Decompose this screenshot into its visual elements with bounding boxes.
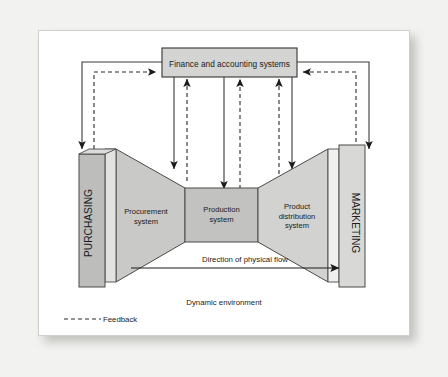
legend-feedback-label: Feedback xyxy=(103,315,137,324)
figure-card: Finance and accounting systems Procureme… xyxy=(38,30,410,336)
dynamic-environment-label: Dynamic environment xyxy=(186,298,262,307)
purchasing-label: PURCHASING xyxy=(83,189,94,257)
purchasing-side-face xyxy=(105,149,116,282)
marketing-label: MARKETING xyxy=(350,193,361,254)
system-flow-diagram: Finance and accounting systems Procureme… xyxy=(39,31,409,335)
marketing-side-face xyxy=(328,149,339,282)
feedback-line-purchasing xyxy=(94,72,156,149)
legend: Feedback xyxy=(64,315,137,324)
purchasing-block[interactable]: PURCHASING xyxy=(79,149,116,287)
finance-box[interactable]: Finance and accounting systems xyxy=(162,48,297,77)
figure-page: Finance and accounting systems Procureme… xyxy=(0,0,448,377)
distribution-label-line3: system xyxy=(285,221,309,230)
production-label-line1: Production xyxy=(203,205,239,214)
physical-flow-label: Direction of physical flow xyxy=(202,255,288,264)
control-line-marketing xyxy=(297,62,369,149)
feedback-line-marketing xyxy=(303,72,356,149)
procurement-label-line2: system xyxy=(134,217,158,226)
finance-box-label: Finance and accounting systems xyxy=(169,59,290,69)
distribution-label-line2: distribution xyxy=(279,212,316,221)
procurement-label-line1: Procurement xyxy=(124,207,168,216)
distribution-label-line1: Product xyxy=(284,202,311,211)
production-system[interactable]: Production system xyxy=(185,188,258,242)
marketing-block[interactable]: MARKETING xyxy=(328,145,365,287)
production-label-line2: system xyxy=(209,215,233,224)
procurement-system[interactable]: Procurement system xyxy=(116,149,185,282)
